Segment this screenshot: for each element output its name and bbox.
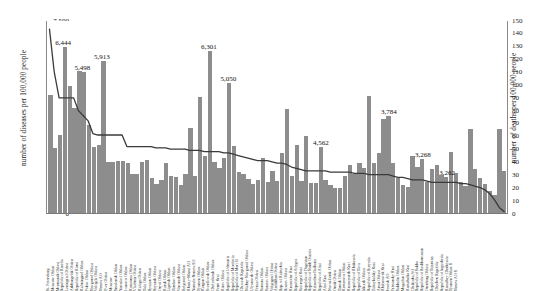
bar-value-label: 4,562 [313, 139, 329, 147]
y-tick-right: 90 [512, 95, 538, 102]
y-tick-right: 130 [512, 43, 538, 50]
bar-value-label: 5,913 [94, 53, 110, 61]
bar-value-label: 6,444 [55, 39, 71, 47]
y-tick-right: 140 [512, 30, 538, 37]
plot-area [46, 21, 508, 214]
y-tick-right: 40 [512, 159, 538, 166]
bar-value-label: 3,268 [415, 151, 431, 159]
deaths-polyline [49, 29, 504, 212]
y-tick-right: 60 [512, 133, 538, 140]
y-tick-right: 110 [512, 69, 538, 76]
y-tick-right: 50 [512, 146, 538, 153]
x-axis-labels: St. PetersburgMoscow OblastMurmansk Obla… [46, 215, 508, 291]
x-tick-label: Nenets AO S [454, 270, 458, 291]
line-series [47, 21, 507, 213]
bar-value-label: 3,262 [439, 169, 455, 177]
bar-value-label: 3,784 [381, 108, 397, 116]
chart-container: number of diseases per 100,000 people nu… [0, 0, 538, 291]
y-tick-right: 100 [512, 82, 538, 89]
bar-value-label: 5,050 [220, 75, 236, 83]
y-tick-right: 20 [512, 185, 538, 192]
bar-value-label: 6,301 [201, 43, 217, 51]
y-tick-right: 30 [512, 172, 538, 179]
y-tick-right: 0 [512, 211, 538, 218]
y-tick-right: 150 [512, 18, 538, 25]
y-tick-right: 120 [512, 56, 538, 63]
y-tick-right: 10 [512, 198, 538, 205]
y-tick-right: 80 [512, 108, 538, 115]
bar-value-label: 5,498 [75, 64, 91, 72]
y-tick-right: 70 [512, 120, 538, 127]
